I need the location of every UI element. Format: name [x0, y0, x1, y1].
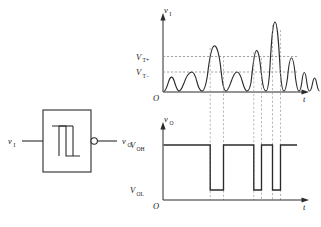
output-low-sub: OL: [137, 191, 145, 197]
input-y-axis-label: v: [164, 5, 168, 15]
output-y-axis-sub: O: [170, 120, 174, 126]
symbol-input-label: v: [8, 136, 12, 146]
trigger-body: [43, 110, 91, 172]
inverting-bubble-icon: [91, 138, 97, 144]
output-y-axis-label: v: [164, 114, 168, 124]
upper-threshold-sub: T+: [143, 57, 150, 63]
output-origin-label: O: [153, 201, 159, 211]
output-high-sub: OH: [137, 146, 145, 152]
symbol-output-label: v: [122, 136, 126, 146]
symbol-input-sub: I: [14, 142, 16, 148]
figure-container: v I v O v I t O V T+ V T−: [0, 0, 321, 227]
lower-threshold-sub: T−: [143, 73, 150, 79]
input-origin-label: O: [153, 93, 159, 103]
input-y-axis-sub: I: [170, 11, 172, 17]
